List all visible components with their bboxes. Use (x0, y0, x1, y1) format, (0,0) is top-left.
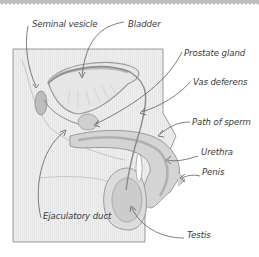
label-testis: Testis (187, 230, 211, 240)
label-seminal-vesicle: Seminal vesicle (32, 19, 97, 29)
label-penis: Penis (202, 167, 224, 177)
label-ejaculatory-duct: Ejaculatory duct (43, 211, 111, 221)
label-bladder: Bladder (128, 19, 161, 29)
label-prostate-gland: Prostate gland (184, 48, 245, 58)
seminal-vesicle-shape (35, 91, 47, 115)
prostate-shape (78, 114, 98, 130)
label-vas-deferens: Vas deferens (193, 77, 247, 87)
leader-penis (182, 175, 200, 178)
label-path-of-sperm: Path of sperm (192, 117, 251, 127)
label-urethra: Urethra (201, 147, 233, 157)
anatomy-diagram (0, 0, 259, 257)
